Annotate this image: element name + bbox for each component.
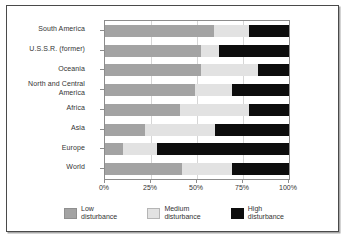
legend-label: High disturbance <box>248 205 284 221</box>
x-tick-label: 100% <box>268 184 308 191</box>
bar-segment-high[interactable] <box>215 124 289 136</box>
category-label: World <box>0 163 85 172</box>
bar-segment-high[interactable] <box>157 143 289 155</box>
legend-swatch <box>231 208 244 219</box>
bar-row[interactable] <box>105 64 289 76</box>
bar-segment-medium[interactable] <box>214 25 249 37</box>
bar-row[interactable] <box>105 124 289 136</box>
bar-row[interactable] <box>105 84 289 96</box>
bar-segment-high[interactable] <box>249 25 289 37</box>
legend-swatch <box>64 208 77 219</box>
bar-segment-low[interactable] <box>105 163 182 175</box>
bar-segment-medium[interactable] <box>123 143 156 155</box>
x-tick-mark <box>288 179 289 183</box>
bar-segment-low[interactable] <box>105 143 123 155</box>
x-tick-label: 75% <box>222 184 262 191</box>
legend-item[interactable]: Medium disturbance <box>147 205 200 221</box>
category-label: Oceania <box>0 65 85 74</box>
category-label-line: U.S.S.R. (former) <box>0 45 85 54</box>
bar-segment-medium[interactable] <box>195 84 232 96</box>
category-label: Asia <box>0 124 85 133</box>
bar-segment-low[interactable] <box>105 124 145 136</box>
x-tick-mark <box>104 179 105 183</box>
legend-swatch <box>147 208 160 219</box>
bar-segment-medium[interactable] <box>201 64 258 76</box>
legend-label: Low disturbance <box>81 205 117 221</box>
bar-segment-medium[interactable] <box>145 124 215 136</box>
category-label-line: Africa <box>0 104 85 113</box>
bar-segment-high[interactable] <box>232 84 289 96</box>
category-label: South America <box>0 25 85 34</box>
category-label-line: Europe <box>0 144 85 153</box>
bar-segment-medium[interactable] <box>182 163 232 175</box>
category-label: North and CentralAmerica <box>0 80 85 97</box>
chart-legend: Low disturbanceMedium disturbanceHigh di… <box>64 202 284 224</box>
bar-row[interactable] <box>105 104 289 116</box>
x-tick-mark <box>150 179 151 183</box>
bar-segment-high[interactable] <box>258 64 289 76</box>
bar-segment-low[interactable] <box>105 104 180 116</box>
x-tick-label: 50% <box>176 184 216 191</box>
bar-segment-high[interactable] <box>249 104 289 116</box>
x-tick-label: 25% <box>130 184 170 191</box>
bar-segment-low[interactable] <box>105 84 195 96</box>
bar-series-container <box>105 21 289 179</box>
legend-item[interactable]: High disturbance <box>231 205 284 221</box>
legend-item[interactable]: Low disturbance <box>64 205 117 221</box>
bar-row[interactable] <box>105 25 289 37</box>
category-label: U.S.S.R. (former) <box>0 45 85 54</box>
x-tick-label: 0% <box>84 184 124 191</box>
category-label: Europe <box>0 144 85 153</box>
category-label-line: North and Central <box>0 80 85 89</box>
bar-segment-low[interactable] <box>105 64 201 76</box>
category-label: Africa <box>0 104 85 113</box>
plot-area <box>104 20 290 180</box>
bar-segment-low[interactable] <box>105 25 214 37</box>
category-label-line: Asia <box>0 124 85 133</box>
bar-segment-medium[interactable] <box>201 45 219 57</box>
bar-row[interactable] <box>105 163 289 175</box>
bar-segment-high[interactable] <box>232 163 289 175</box>
category-label-line: Oceania <box>0 65 85 74</box>
x-tick-mark <box>242 179 243 183</box>
chart-figure: South AmericaU.S.S.R. (former)OceaniaNor… <box>6 5 339 232</box>
category-label-line: World <box>0 163 85 172</box>
category-label-line: America <box>0 89 85 98</box>
bar-row[interactable] <box>105 45 289 57</box>
bar-segment-low[interactable] <box>105 45 201 57</box>
bar-segment-medium[interactable] <box>180 104 248 116</box>
category-label-line: South America <box>0 25 85 34</box>
x-tick-mark <box>196 179 197 183</box>
bar-row[interactable] <box>105 143 289 155</box>
legend-label: Medium disturbance <box>164 205 200 221</box>
bar-segment-high[interactable] <box>219 45 289 57</box>
